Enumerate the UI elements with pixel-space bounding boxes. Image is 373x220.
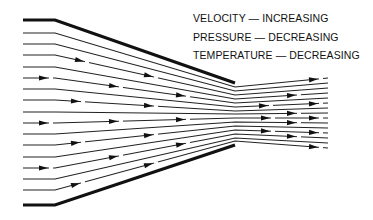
arrowhead-icon	[144, 161, 154, 168]
arrowhead-icon	[71, 181, 81, 188]
arrowhead-icon	[176, 117, 185, 122]
arrowhead-icon	[109, 119, 118, 124]
arrowhead-icon	[144, 72, 154, 79]
arrow-gap	[119, 87, 123, 88]
arrowhead-icon	[39, 75, 48, 80]
arrowhead-icon	[309, 144, 318, 150]
arrowhead-icon	[259, 103, 268, 109]
legend: VELOCITY — INCREASING PRESSURE — DECREAS…	[193, 9, 360, 65]
streamline	[23, 112, 328, 114]
arrowhead-icon	[287, 92, 296, 98]
arrowhead-icon	[261, 115, 270, 120]
arrowhead-icon	[176, 141, 186, 148]
arrow-gap	[81, 182, 85, 183]
arrow-gap	[154, 162, 158, 163]
arrowhead-icon	[309, 101, 318, 107]
arrowhead-icon	[75, 57, 85, 64]
legend-pressure: PRESSURE — DECREASING	[193, 28, 360, 47]
arrow-gap	[186, 96, 190, 97]
arrowhead-icon	[287, 111, 296, 116]
arrowhead-icon	[39, 165, 48, 170]
legend-velocity: VELOCITY — INCREASING	[193, 9, 360, 28]
arrowhead-icon	[287, 134, 296, 140]
arrowhead-icon	[109, 154, 119, 161]
arrowhead-icon	[287, 120, 296, 125]
arrowhead-icon	[71, 98, 80, 104]
legend-temperature: TEMPERATURE — DECREASING	[193, 46, 360, 65]
arrow-gap	[119, 155, 123, 156]
arrowhead-icon	[261, 128, 270, 133]
arrowhead-icon	[309, 130, 318, 135]
arrowhead-icon	[309, 115, 318, 120]
arrowhead-icon	[144, 103, 153, 109]
arrowhead-icon	[39, 120, 48, 125]
arrow-gap	[85, 62, 89, 63]
arrow-gap	[186, 143, 190, 144]
arrowhead-icon	[309, 76, 318, 82]
arrow-gap	[154, 77, 158, 78]
